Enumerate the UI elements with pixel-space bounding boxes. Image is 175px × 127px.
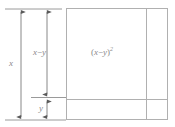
square-area-label: (x−y)2 [91, 48, 113, 57]
label-y-term: y [42, 47, 46, 57]
square-figure [67, 9, 168, 120]
geometric-diagram: x x−y y (x−y)2 [0, 0, 175, 127]
square-outline [67, 9, 168, 120]
dimension-arrows [21, 12, 47, 117]
area-exponent: 2 [110, 46, 113, 52]
diagram-canvas [0, 0, 175, 127]
dimension-label-y: y [39, 104, 43, 113]
dimension-label-x: x [9, 59, 13, 68]
guide-lines [5, 9, 66, 120]
dimension-label-x-minus-y: x−y [33, 48, 46, 57]
